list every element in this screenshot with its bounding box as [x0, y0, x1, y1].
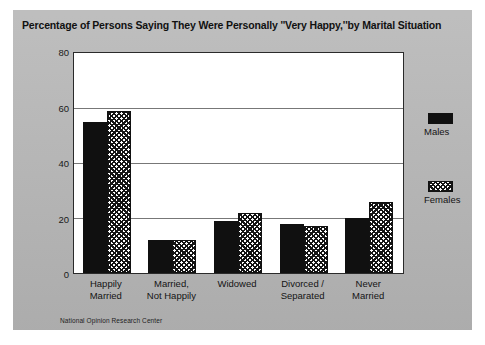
y-tick-label: 40 [35, 158, 69, 169]
legend-label-females: Females [424, 194, 485, 205]
bar-group [345, 53, 393, 273]
bar-females [369, 202, 393, 274]
y-tick-label: 80 [35, 47, 69, 58]
y-axis: 80 60 40 20 0 [25, 52, 69, 274]
legend-swatch-males-icon [428, 113, 453, 124]
bar-group [280, 53, 328, 273]
legend-label-males: Males [424, 126, 485, 137]
bar-series-container [74, 53, 403, 273]
x-axis-label-line: Not Happily [128, 290, 214, 302]
chart-legend: Males Females [424, 113, 485, 249]
bar-males [83, 122, 107, 273]
chart-title: Percentage of Persons Saying They Were P… [22, 19, 467, 31]
x-axis-labels: HappilyMarriedMarried,Not HappilyWidowed… [73, 278, 404, 308]
bar-group [214, 53, 262, 273]
bar-males [345, 218, 369, 273]
bar-males [280, 224, 304, 274]
source-note: National Opinion Research Center [60, 317, 162, 324]
bar-group [148, 53, 196, 273]
legend-swatch-females-icon [428, 181, 453, 192]
legend-item-males: Males [424, 113, 485, 137]
x-axis-label-line: Never [325, 278, 411, 290]
bar-group [83, 53, 131, 273]
x-axis-label: NeverMarried [325, 278, 411, 301]
bar-males [214, 221, 238, 273]
y-tick-label: 60 [35, 102, 69, 113]
chart-plate: Percentage of Persons Saying They Were P… [13, 10, 472, 330]
bar-females [238, 213, 262, 274]
bar-females [107, 111, 131, 273]
bar-females [304, 226, 328, 273]
y-tick-label: 20 [35, 213, 69, 224]
chart-screenshot: Percentage of Persons Saying They Were P… [0, 0, 485, 345]
x-axis-label-line: Married [325, 290, 411, 302]
bar-males [148, 240, 172, 273]
bar-females [172, 240, 196, 273]
legend-item-females: Females [424, 181, 485, 205]
plot-area [73, 52, 404, 274]
